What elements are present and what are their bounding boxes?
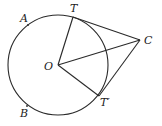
label-t-prime: T′ <box>100 96 110 109</box>
label-o: O <box>44 60 53 73</box>
label-a: A <box>19 12 28 25</box>
label-t: T <box>70 2 79 15</box>
segment-ot-prime <box>58 65 99 96</box>
segment-ot <box>58 17 73 65</box>
segment-oc <box>58 40 140 65</box>
label-c: C <box>144 34 153 47</box>
label-b: B <box>19 107 28 120</box>
circle-tangent-diagram: A T C O T′ B <box>0 0 162 126</box>
tangent-tc <box>73 17 140 40</box>
